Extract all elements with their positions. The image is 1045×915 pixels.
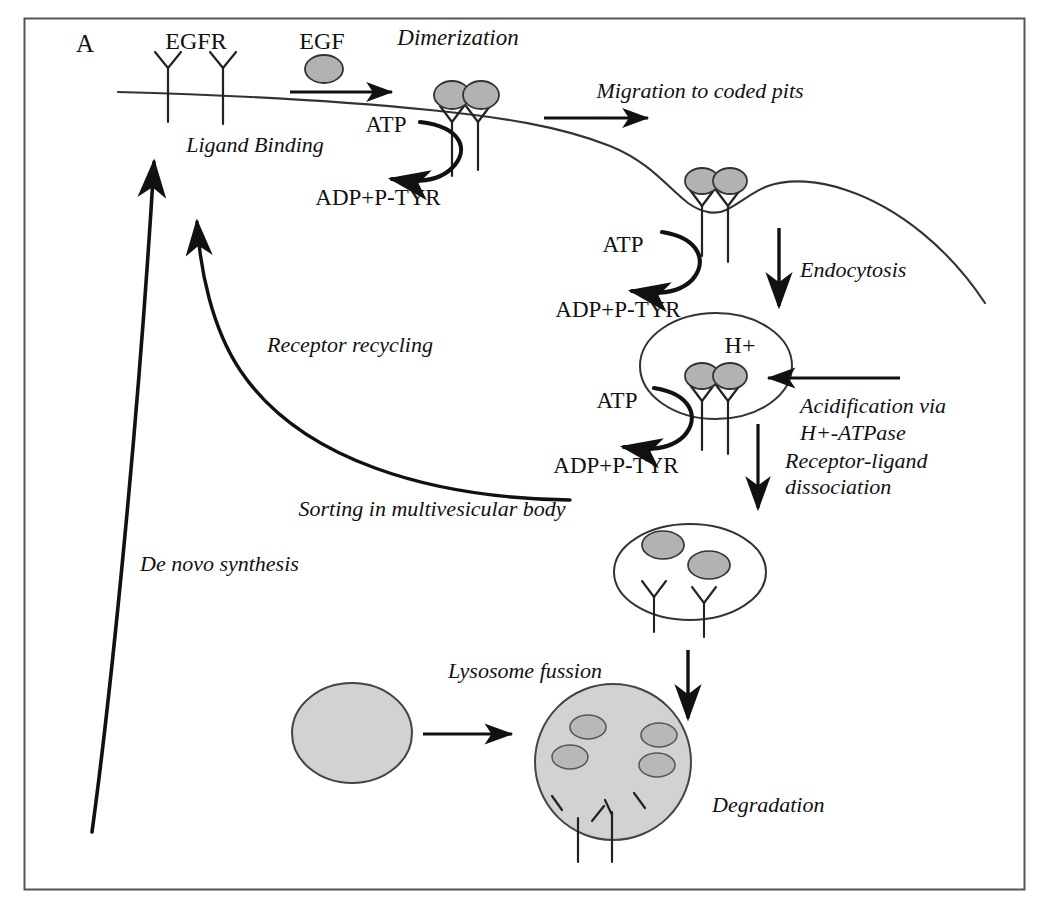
h-plus-label: H+ (725, 332, 756, 358)
receptor-ligand-label-line2: dissociation (785, 474, 891, 499)
mvb-vesicle-2 (688, 551, 730, 579)
acidification-label-line2: H+-ATPase (799, 420, 906, 445)
dimerization-label: Dimerization (396, 25, 518, 50)
receptor-ligand-label-line1: Receptor-ligand (784, 448, 929, 473)
degrading-vesicle-1 (570, 715, 606, 739)
early-endosome (640, 313, 792, 419)
ligand-binding-label: Ligand Binding (185, 132, 324, 157)
adp-label-membrane: ADP+P-TYR (315, 185, 441, 210)
endocytosis-label: Endocytosis (799, 257, 906, 282)
egfr-label: EGFR (165, 28, 226, 54)
degrading-vesicle-3 (641, 723, 677, 747)
egf-ligand-free (305, 55, 343, 83)
egf-label: EGF (299, 28, 344, 54)
figure-panel: A EGFR Ligand Binding EGF Dimerization (0, 0, 1045, 915)
receptor-recycling-label: Receptor recycling (266, 332, 433, 357)
adp-label-endosome: ADP+P-TYR (553, 453, 679, 478)
migration-label: Migration to coded pits (595, 78, 803, 103)
sorting-label: Sorting in multivesicular body (298, 496, 565, 521)
egf-ligand-pit-right (713, 168, 747, 194)
atp-label-membrane: ATP (366, 112, 407, 137)
degrading-vesicle-2 (552, 745, 588, 769)
atp-label-endosome: ATP (597, 388, 638, 413)
egfr-trafficking-diagram: A EGFR Ligand Binding EGF Dimerization (0, 0, 1045, 915)
adp-label-pit: ADP+P-TYR (555, 297, 681, 322)
mvb-vesicle-1 (642, 531, 684, 559)
de-novo-synthesis-label: De novo synthesis (139, 551, 299, 576)
egf-ligand-bound-right (463, 81, 499, 109)
lysosome (292, 683, 412, 783)
egf-ligand-endosome-right (713, 363, 747, 389)
lysosome-fusion-label: Lysosome fussion (447, 658, 602, 683)
panel-label: A (76, 30, 94, 57)
acidification-label-line1: Acidification via (798, 393, 946, 418)
degradation-label: Degradation (711, 792, 824, 817)
atp-label-pit: ATP (603, 232, 644, 257)
degrading-vesicle-4 (639, 753, 675, 777)
